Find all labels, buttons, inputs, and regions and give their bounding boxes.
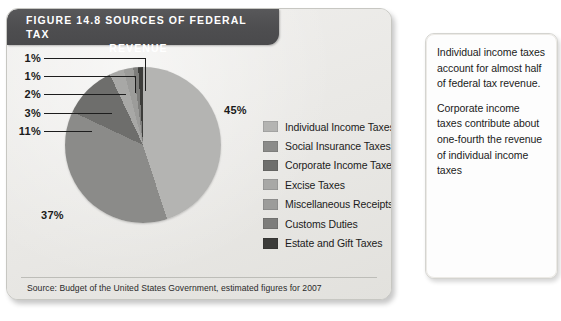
legend-label: Corporate Income Taxes: [285, 159, 392, 171]
legend-label: Customs Duties: [285, 218, 358, 230]
leader-line-excise-taxes: [44, 113, 112, 114]
leader-line-misc-receipts: [44, 94, 126, 95]
commentary-panel: Individual income taxes account for almo…: [425, 33, 558, 279]
leader-line-estate-gift: [44, 58, 146, 59]
pie-label-3-percent-excise: 3%: [7, 107, 41, 119]
chart-legend: Individual Income Taxes Social Insurance…: [263, 117, 389, 253]
leader-line-estate-gift-drop: [145, 58, 146, 91]
legend-item-estate-and-gift-taxes: Estate and Gift Taxes: [263, 233, 389, 252]
legend-swatch-icon: [263, 218, 278, 229]
pie-slices: [65, 67, 221, 223]
legend-label: Estate and Gift Taxes: [285, 237, 383, 249]
commentary-paragraph-1: Individual income taxes account for almo…: [437, 45, 547, 92]
legend-swatch-icon: [263, 141, 278, 152]
pie-label-2-percent-misc: 2%: [7, 88, 41, 100]
figure-header-bar: FIGURE 14.8 SOURCES OF FEDERAL TAX REVEN…: [7, 9, 279, 45]
commentary-panel-inner: Individual income taxes account for almo…: [426, 34, 557, 278]
legend-swatch-icon: [263, 238, 278, 249]
legend-item-individual-income-taxes: Individual Income Taxes: [263, 117, 389, 136]
pie-graphic: [65, 67, 221, 223]
legend-swatch-icon: [263, 179, 278, 190]
legend-label: Miscellaneous Receipts: [285, 198, 392, 210]
legend-swatch-icon: [263, 199, 278, 210]
legend-swatch-icon: [263, 121, 278, 132]
pie-label-1-percent-customs: 1%: [7, 70, 41, 82]
pie-label-45-percent-individual-income: 45%: [224, 104, 247, 116]
legend-label: Social Insurance Taxes: [285, 140, 391, 152]
figure-card: FIGURE 14.8 SOURCES OF FEDERAL TAX REVEN…: [6, 8, 392, 300]
legend-item-corporate-income-taxes: Corporate Income Taxes: [263, 156, 389, 175]
commentary-paragraph-2: Corporate income taxes contribute about …: [437, 101, 547, 179]
legend-item-excise-taxes: Excise Taxes: [263, 175, 389, 194]
pie-label-1-percent-estate: 1%: [7, 52, 41, 64]
pie-chart: 1% 1% 2% 3% 11% 37% 45% Individual Incom…: [7, 45, 391, 277]
legend-label: Excise Taxes: [285, 179, 345, 191]
legend-item-social-insurance-taxes: Social Insurance Taxes: [263, 136, 389, 155]
legend-item-miscellaneous-receipts: Miscellaneous Receipts: [263, 195, 389, 214]
legend-label: Individual Income Taxes: [285, 121, 392, 133]
legend-swatch-icon: [263, 160, 278, 171]
pie-label-37-percent-social-insurance: 37%: [41, 209, 64, 221]
leader-line-customs-duties-drop: [135, 76, 136, 93]
leader-line-customs-duties: [44, 76, 136, 77]
leader-line-corporate-income: [44, 131, 92, 132]
figure-title-line1: FIGURE 14.8 SOURCES OF FEDERAL TAX: [26, 14, 247, 40]
legend-item-customs-duties: Customs Duties: [263, 214, 389, 233]
source-divider: [21, 277, 377, 278]
pie-label-11-percent-corporate: 11%: [7, 125, 41, 137]
source-note: Source: Budget of the United States Gove…: [27, 283, 322, 293]
